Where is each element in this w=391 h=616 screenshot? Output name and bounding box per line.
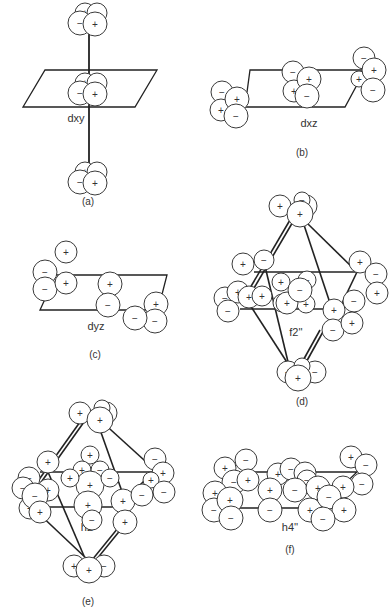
plus-sign: + [85,500,91,511]
lobe-cluster-left: +−−+ [33,241,77,301]
minus-sign: − [231,477,237,488]
plus-sign: + [240,259,246,270]
minus-sign: − [359,479,365,490]
plus-sign: + [306,74,312,85]
minus-sign: − [312,367,318,378]
plus-sign: + [348,452,354,463]
minus-sign: − [152,454,158,465]
plus-sign: + [277,201,283,212]
orbital-label: dyz [87,320,104,332]
plus-sign: + [87,450,93,461]
lobe-cluster-center: +−−+ [68,73,107,106]
minus-sign: − [290,67,296,78]
plus-sign: + [331,305,337,316]
plus-sign: + [92,19,98,30]
minus-sign: − [370,85,376,96]
panel-caption: (e) [82,596,94,607]
orbital-figure: dxy (a) dxz (b) dyz (c) f2'' (d) [0,0,391,616]
minus-sign: − [32,491,38,502]
plus-sign: + [153,299,159,310]
minus-sign: − [161,487,167,498]
lobe-cluster-center: +−−+++− [252,271,316,314]
orbital-lobes: +−−++−−++−−+−++−−++−−++−+−−++−+−−+−−++−−… [12,3,388,583]
plus-sign: + [297,209,303,220]
plus-sign: + [246,292,252,303]
minus-sign: − [373,269,379,280]
plus-sign: + [120,496,126,507]
minus-sign: − [77,18,83,29]
plus-sign: + [284,298,290,309]
minus-sign: − [42,267,48,278]
orbital-label: dxy [67,112,85,124]
minus-sign: − [152,316,158,327]
lobe-cluster-left: +−++−−+ [12,451,59,523]
panel-caption: (c) [89,349,101,360]
minus-sign: − [292,485,298,496]
lobe-cluster-right: +−++−−+ [322,251,388,341]
minus-sign: − [132,313,138,324]
lobe-cluster-right: −++−+−+ [111,448,175,534]
lobe-cluster-bottom: +−+ [63,555,115,583]
minus-sign: − [228,513,234,524]
plus-sign: + [371,65,377,76]
minus-sign: − [219,87,225,98]
lobe-cluster-top: +−−+ [68,3,107,36]
minus-sign: − [330,325,336,336]
plus-sign: + [267,485,273,496]
plus-sign: + [37,507,43,518]
orbital-label: dxz [300,117,317,129]
plus-sign: + [341,505,347,516]
plus-sign: + [77,408,83,419]
minus-sign: − [288,464,294,475]
lobe-cluster-bottom: +−−+ [277,358,326,391]
plus-sign: + [349,318,355,329]
minus-sign: − [351,296,357,307]
plus-sign: + [259,291,265,302]
plus-sign: + [160,468,166,479]
plus-sign: + [86,565,92,576]
minus-sign: − [267,505,273,516]
plus-sign: + [92,89,98,100]
minus-sign: − [233,111,239,122]
minus-sign: − [77,177,83,188]
plus-sign: + [245,475,251,486]
lobe-cluster-right: +−−+−+− [311,446,377,531]
minus-sign: − [211,505,217,516]
plus-sign: + [63,278,69,289]
minus-sign: − [139,490,145,501]
minus-sign: − [297,285,303,296]
minus-sign: − [304,91,310,102]
panel-caption: (f) [285,544,294,555]
lobe-cluster-center: +− [96,272,122,317]
plus-sign: + [227,495,233,506]
plus-sign: + [97,415,103,426]
lobe-cluster-left: −++− [210,81,249,128]
plus-sign: + [87,480,93,491]
minus-sign: − [326,492,332,503]
plus-sign: + [45,457,51,468]
panel-caption: (d) [296,396,308,407]
lobe-cluster-bottom: +−−+ [68,162,107,195]
lobe-cluster-top: +−−+ [269,192,317,227]
orbital-label: h4'' [282,521,298,533]
plus-sign: + [356,74,362,85]
plus-sign: + [107,279,113,290]
plus-sign: + [67,473,73,484]
minus-sign: − [77,88,83,99]
plus-sign: + [148,475,154,486]
plus-sign: + [92,178,98,189]
plus-sign: + [374,288,380,299]
minus-sign: − [320,514,326,525]
lobe-cluster-left: +−−++−+− [202,449,259,530]
plus-sign: + [357,257,363,268]
minus-sign: − [225,306,231,317]
panel-caption: (a) [82,196,94,207]
minus-sign: − [42,284,48,295]
plus-sign: + [63,247,69,258]
lobe-cluster-center: −++− [282,61,321,108]
minus-sign: − [363,460,369,471]
orbital-label: f2'' [289,326,302,338]
minus-sign: − [261,255,267,266]
plus-sign: + [340,482,346,493]
lobe-cluster-right: +−− [123,292,168,333]
